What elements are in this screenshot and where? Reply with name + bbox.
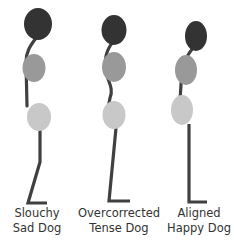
hips-ellipse: [171, 95, 193, 125]
head-ellipse: [24, 8, 52, 40]
label-line-1: Overcorrected: [74, 206, 164, 221]
label-line-2: Tense Dog: [74, 221, 164, 236]
label-aligned: Aligned Happy Dog: [154, 206, 234, 236]
label-slouchy: Slouchy Sad Dog: [0, 206, 82, 236]
hips-ellipse: [103, 101, 126, 129]
figure-overcorrected: [102, 15, 131, 201]
label-line-1: Aligned: [154, 206, 234, 221]
figure-aligned: [171, 21, 207, 202]
label-line-2: Happy Dog: [154, 221, 234, 236]
hips-ellipse: [27, 103, 51, 131]
label-line-2: Sad Dog: [0, 221, 82, 236]
label-line-1: Slouchy: [0, 206, 82, 221]
chest-ellipse: [175, 55, 197, 85]
chest-ellipse: [23, 54, 46, 82]
label-overcorrected: Overcorrected Tense Dog: [74, 206, 164, 236]
figure-slouchy: [23, 8, 53, 203]
head-ellipse: [185, 21, 207, 51]
leg-line: [189, 124, 207, 202]
leg-line: [28, 128, 47, 203]
head-ellipse: [102, 15, 127, 45]
chest-ellipse: [102, 52, 126, 82]
leg-line: [109, 128, 130, 201]
